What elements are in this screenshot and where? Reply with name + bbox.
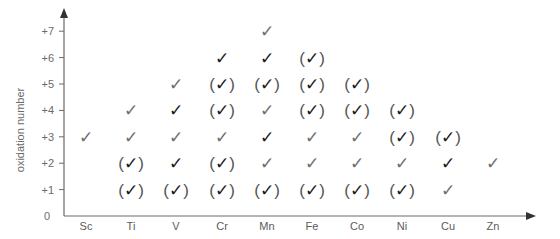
check-icon: ✓ [124, 179, 138, 199]
check-mark-cr-5: (✓) [197, 74, 247, 95]
check-icon: ✓ [305, 47, 319, 67]
check-mark-co-2: ✓ [332, 153, 382, 173]
close-paren: ) [319, 75, 325, 94]
check-mark-cr-6: ✓ [197, 48, 247, 68]
oxidation-state-chart: oxidation number 0+1+2+3+4+5+6+7 ScTiVCr… [0, 0, 560, 239]
check-icon: ✓ [441, 153, 455, 173]
x-tick-label-zn: Zn [478, 220, 508, 232]
check-mark-zn-2: ✓ [468, 153, 518, 173]
close-paren: ) [364, 101, 370, 120]
check-icon: ✓ [350, 153, 364, 173]
check-mark-sc-3: ✓ [61, 127, 111, 147]
check-mark-fe-6: (✓) [287, 47, 337, 68]
check-mark-v-3: ✓ [151, 127, 201, 147]
check-mark-cu-3: (✓) [423, 126, 473, 147]
check-icon: ✓ [215, 179, 229, 199]
close-paren: ) [319, 48, 325, 67]
check-mark-ni-2: ✓ [377, 153, 427, 173]
close-paren: ) [229, 154, 235, 173]
close-paren: ) [409, 101, 415, 120]
check-icon: ✓ [215, 74, 229, 94]
check-mark-mn-7: ✓ [242, 21, 292, 41]
check-icon: ✓ [350, 127, 364, 147]
check-mark-co-5: (✓) [332, 74, 382, 95]
check-icon: ✓ [169, 179, 183, 199]
x-tick-label-cr: Cr [207, 220, 237, 232]
check-mark-v-5: ✓ [151, 74, 201, 94]
check-icon: ✓ [124, 127, 138, 147]
check-icon: ✓ [169, 127, 183, 147]
y-tick-label: 0 [20, 210, 50, 222]
check-mark-mn-1: (✓) [242, 179, 292, 200]
check-icon: ✓ [169, 100, 183, 120]
check-mark-mn-6: ✓ [242, 48, 292, 68]
check-icon: ✓ [260, 127, 274, 147]
x-tick-label-co: Co [342, 220, 372, 232]
close-paren: ) [183, 180, 189, 199]
check-icon: ✓ [169, 74, 183, 94]
check-icon: ✓ [350, 74, 364, 94]
x-tick-label-sc: Sc [71, 220, 101, 232]
check-icon: ✓ [441, 180, 455, 200]
check-icon: ✓ [260, 48, 274, 68]
close-paren: ) [138, 180, 144, 199]
x-tick-label-cu: Cu [433, 220, 463, 232]
check-mark-ni-4: (✓) [377, 100, 427, 121]
check-mark-ni-1: (✓) [377, 179, 427, 200]
y-tick-label: +6 [24, 52, 54, 64]
check-icon: ✓ [124, 100, 138, 120]
check-mark-v-4: ✓ [151, 100, 201, 120]
close-paren: ) [274, 180, 280, 199]
check-mark-co-4: (✓) [332, 100, 382, 121]
check-icon: ✓ [305, 153, 319, 173]
check-mark-cr-1: (✓) [197, 179, 247, 200]
close-paren: ) [319, 101, 325, 120]
check-icon: ✓ [260, 74, 274, 94]
check-mark-fe-2: ✓ [287, 153, 337, 173]
check-mark-mn-2: ✓ [242, 153, 292, 173]
x-axis-arrow-icon [526, 212, 536, 220]
y-tick-label: +7 [24, 25, 54, 37]
close-paren: ) [409, 180, 415, 199]
check-icon: ✓ [350, 179, 364, 199]
check-icon: ✓ [215, 100, 229, 120]
x-tick-label-v: V [161, 220, 191, 232]
y-tick-label: +2 [24, 157, 54, 169]
check-icon: ✓ [441, 126, 455, 146]
close-paren: ) [319, 180, 325, 199]
check-icon: ✓ [124, 153, 138, 173]
close-paren: ) [138, 154, 144, 173]
y-ticks [59, 31, 64, 189]
check-mark-cr-3: ✓ [197, 127, 247, 147]
check-mark-ti-2: (✓) [106, 153, 156, 174]
close-paren: ) [229, 180, 235, 199]
check-icon: ✓ [305, 179, 319, 199]
close-paren: ) [364, 180, 370, 199]
check-mark-mn-3: ✓ [242, 127, 292, 147]
check-mark-mn-5: (✓) [242, 74, 292, 95]
check-icon: ✓ [215, 127, 229, 147]
y-tick-label: +3 [24, 131, 54, 143]
x-tick-label-ti: Ti [116, 220, 146, 232]
close-paren: ) [364, 75, 370, 94]
x-tick-label-mn: Mn [252, 220, 282, 232]
check-mark-co-1: (✓) [332, 179, 382, 200]
check-mark-ti-3: ✓ [106, 127, 156, 147]
check-mark-fe-1: (✓) [287, 179, 337, 200]
check-mark-cu-2: ✓ [423, 153, 473, 173]
check-icon: ✓ [260, 21, 274, 41]
check-icon: ✓ [79, 127, 93, 147]
close-paren: ) [409, 127, 415, 146]
check-icon: ✓ [169, 153, 183, 173]
close-paren: ) [229, 75, 235, 94]
check-icon: ✓ [395, 153, 409, 173]
check-mark-fe-5: (✓) [287, 74, 337, 95]
check-mark-fe-3: ✓ [287, 127, 337, 147]
check-icon: ✓ [260, 100, 274, 120]
check-icon: ✓ [486, 153, 500, 173]
check-icon: ✓ [305, 100, 319, 120]
y-axis-arrow-icon [60, 8, 68, 18]
close-paren: ) [229, 101, 235, 120]
check-mark-cr-2: (✓) [197, 153, 247, 174]
x-tick-label-fe: Fe [297, 220, 327, 232]
